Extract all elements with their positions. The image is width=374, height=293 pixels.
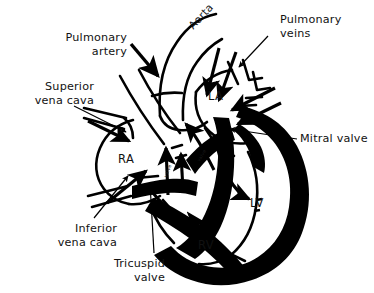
label-tricuspid-valve-line2: valve bbox=[134, 271, 165, 284]
label-pulmonary-veins-line2: veins bbox=[280, 27, 311, 40]
label-superior-vena-cava-line2: vena cava bbox=[35, 94, 94, 107]
label-pulmonary-artery-line1: Pulmonary bbox=[66, 31, 127, 44]
label-mitral-valve: Mitral valve bbox=[300, 132, 368, 146]
label-superior-vena-cava-line1: Superior bbox=[45, 80, 94, 93]
label-pulmonary-veins-line1: Pulmonary bbox=[280, 13, 341, 26]
leader-pulmonary-veins bbox=[239, 36, 268, 67]
chamber-label-right-ventricle: RV bbox=[198, 238, 214, 252]
chamber-label-left-ventricle: LV bbox=[250, 196, 264, 210]
leader-pulmonary-artery bbox=[131, 44, 158, 76]
label-tricuspid-valve-line1: Tricuspid bbox=[114, 257, 165, 270]
label-inferior-vena-cava-line2: vena cava bbox=[58, 236, 117, 249]
chamber-label-left-atrium: LA bbox=[208, 89, 223, 103]
label-tricuspid-valve: Tricuspid valve bbox=[75, 257, 165, 284]
label-inferior-vena-cava-line1: Inferior bbox=[75, 222, 117, 235]
heart-anatomy-diagram: Pulmonary artery Superior vena cava Infe… bbox=[0, 0, 374, 293]
label-pulmonary-artery-line2: artery bbox=[92, 45, 127, 58]
label-superior-vena-cava: Superior vena cava bbox=[4, 80, 94, 107]
label-pulmonary-artery: Pulmonary artery bbox=[37, 31, 127, 58]
label-inferior-vena-cava: Inferior vena cava bbox=[27, 222, 117, 249]
label-pulmonary-veins: Pulmonary veins bbox=[280, 13, 370, 40]
chamber-label-right-atrium: RA bbox=[118, 152, 134, 166]
